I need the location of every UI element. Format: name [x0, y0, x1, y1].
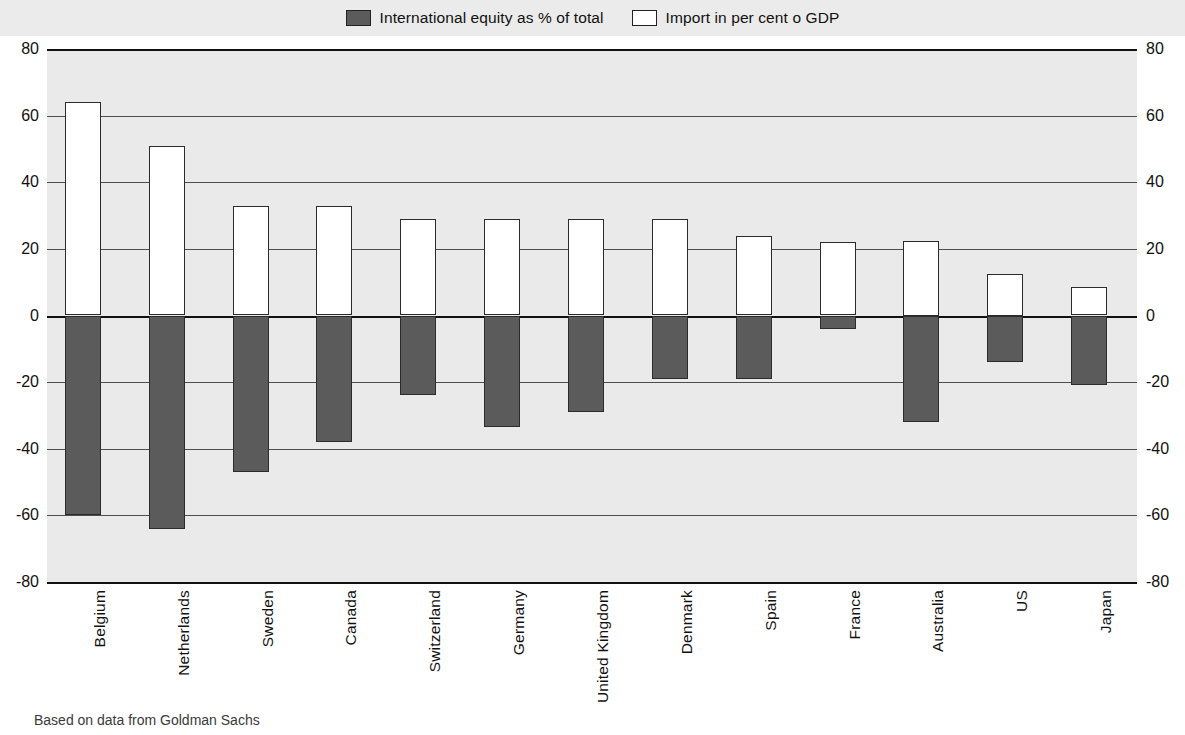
x-axis-tick-denmark: Denmark — [678, 590, 696, 654]
gridline--40 — [47, 449, 1137, 450]
bar-import-netherlands — [149, 146, 185, 316]
x-axis-tick-united-kingdom: United Kingdom — [594, 590, 612, 703]
gridline--80 — [47, 582, 1137, 584]
bar-equity-spain — [736, 316, 772, 379]
y-axis-tick-right--80: -80 — [1146, 574, 1169, 590]
y-axis-tick-right--40: -40 — [1146, 441, 1169, 457]
bar-equity-france — [820, 316, 856, 329]
filled-dark-swatch-icon — [346, 10, 371, 26]
y-axis-tick-right-20: 20 — [1146, 241, 1164, 257]
legend-label-import-gdp: Import in per cent o GDP — [666, 9, 840, 27]
bar-import-us — [987, 274, 1023, 316]
legend-item-import-gdp: Import in per cent o GDP — [632, 9, 840, 27]
bar-import-united-kingdom — [568, 219, 604, 316]
bar-import-france — [820, 242, 856, 315]
gridline-80 — [47, 49, 1137, 51]
bar-import-denmark — [652, 219, 688, 316]
bar-equity-japan — [1071, 316, 1107, 386]
x-axis-tick-france: France — [846, 590, 864, 639]
legend-item-international-equity: International equity as % of total — [346, 9, 604, 27]
bar-import-belgium — [65, 102, 101, 315]
y-axis-tick-right-60: 60 — [1146, 108, 1164, 124]
bar-import-germany — [484, 219, 520, 316]
bar-import-sweden — [233, 206, 269, 316]
y-axis-tick-left--20: -20 — [16, 374, 39, 390]
source-note: Based on data from Goldman Sachs — [24, 712, 260, 728]
bar-equity-united-kingdom — [568, 316, 604, 413]
outlined-white-swatch-icon — [632, 10, 657, 26]
bar-import-switzerland — [400, 219, 436, 316]
y-axis-tick-left-80: 80 — [21, 41, 39, 57]
bar-equity-netherlands — [149, 316, 185, 529]
bar-import-australia — [903, 241, 939, 316]
y-axis-tick-right-40: 40 — [1146, 174, 1164, 190]
chart-legend: International equity as % of total Impor… — [0, 0, 1185, 36]
bar-import-japan — [1071, 287, 1107, 315]
bar-equity-australia — [903, 316, 939, 423]
x-axis-tick-germany: Germany — [510, 590, 528, 655]
bar-equity-belgium — [65, 316, 101, 516]
x-axis-tick-switzerland: Switzerland — [426, 590, 444, 672]
bar-import-spain — [736, 236, 772, 316]
x-axis-tick-sweden: Sweden — [259, 590, 277, 647]
gridline-60 — [47, 116, 1137, 117]
y-axis-tick-left--80: -80 — [16, 574, 39, 590]
y-axis-tick-right-80: 80 — [1146, 41, 1164, 57]
y-axis-tick-right--20: -20 — [1146, 374, 1169, 390]
gridline-40 — [47, 182, 1137, 183]
chart-root: International equity as % of total Impor… — [0, 0, 1185, 735]
y-axis-tick-right--60: -60 — [1146, 507, 1169, 523]
x-axis-tick-australia: Australia — [929, 590, 947, 652]
gridline--60 — [47, 515, 1137, 516]
y-axis-tick-left-0: 0 — [30, 308, 39, 324]
y-axis-tick-left-60: 60 — [21, 108, 39, 124]
source-text: Based on data from Goldman Sachs — [34, 712, 260, 728]
y-axis-tick-left-40: 40 — [21, 174, 39, 190]
bar-equity-switzerland — [400, 316, 436, 396]
bar-equity-canada — [316, 316, 352, 443]
bar-import-canada — [316, 206, 352, 316]
y-axis-tick-right-0: 0 — [1146, 308, 1155, 324]
bar-equity-denmark — [652, 316, 688, 379]
x-axis-tick-netherlands: Netherlands — [175, 590, 193, 676]
x-axis-tick-japan: Japan — [1097, 590, 1115, 633]
x-axis-tick-us: US — [1013, 590, 1031, 612]
x-axis-tick-canada: Canada — [342, 590, 360, 646]
legend-label-international-equity: International equity as % of total — [380, 9, 604, 27]
x-axis-tick-belgium: Belgium — [91, 590, 109, 647]
y-axis-tick-left--40: -40 — [16, 441, 39, 457]
bar-equity-sweden — [233, 316, 269, 473]
x-axis-tick-spain: Spain — [762, 590, 780, 631]
y-axis-tick-left--60: -60 — [16, 507, 39, 523]
y-axis-tick-left-20: 20 — [21, 241, 39, 257]
bar-equity-germany — [484, 316, 520, 428]
bar-equity-us — [987, 316, 1023, 363]
